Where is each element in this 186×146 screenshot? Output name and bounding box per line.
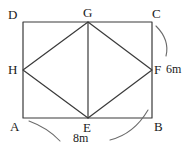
vertex-label-b: B bbox=[154, 120, 163, 133]
arc-near-c-icon bbox=[156, 26, 167, 56]
vertex-label-f: F bbox=[154, 63, 161, 76]
vertex-label-c: C bbox=[152, 7, 161, 20]
arc-near-a-icon bbox=[29, 121, 60, 141]
vertex-label-h: H bbox=[8, 63, 17, 76]
geometry-diagram: D G C H F A E B 6m 8m bbox=[0, 0, 186, 146]
height-measurement-label: 6m bbox=[166, 63, 181, 75]
arc-near-b-icon bbox=[110, 110, 148, 140]
width-measurement-label: 8m bbox=[73, 132, 88, 144]
vertex-label-d: D bbox=[8, 8, 17, 21]
vertex-label-a: A bbox=[10, 120, 19, 133]
vertex-label-g: G bbox=[83, 6, 92, 19]
